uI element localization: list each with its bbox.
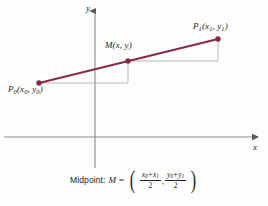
point-label-p1: P1(x1, y1) (193, 21, 228, 32)
formula-equals: = (119, 175, 124, 185)
formula-fraction-x: x0+x1 2 (140, 171, 161, 190)
midpoint-figure: P0(x0, y0) M(x, y) P1(x1, y1) y x Midpoi… (0, 0, 268, 206)
point-label-m-coords: (x, y) (113, 40, 132, 50)
point-m (125, 58, 130, 63)
point-p1 (215, 36, 220, 41)
point-label-m-letter: M (105, 40, 113, 50)
point-label-p1-coords: (x1, y1) (202, 21, 228, 31)
x-axis-label: x (253, 142, 257, 152)
point-label-p0: P0(x0, y0) (8, 84, 43, 95)
formula-fraction-y: y0+y1 2 (165, 171, 186, 190)
formula-comma: , (162, 177, 164, 190)
point-label-m: M(x, y) (105, 40, 132, 50)
formula-fraction-y-denominator: 2 (174, 181, 178, 189)
formula-variable: M (108, 175, 116, 185)
y-axis-label: y (86, 3, 90, 13)
formula-label: Midpoint: (70, 175, 105, 185)
formula-open-paren: ( (130, 170, 135, 191)
formula-fraction-x-numerator: x0+x1 (140, 171, 161, 180)
formula-fraction-y-numerator: y0+y1 (165, 171, 186, 180)
midpoint-formula: Midpoint: M = ( x0+x1 2 , y0+y1 2 ) (0, 170, 268, 191)
formula-close-paren: ) (191, 170, 196, 191)
formula-fractions: x0+x1 2 , y0+y1 2 (140, 171, 187, 190)
formula-fraction-x-denominator: 2 (148, 181, 152, 189)
point-label-p0-coords: (x0, y0) (17, 84, 43, 94)
